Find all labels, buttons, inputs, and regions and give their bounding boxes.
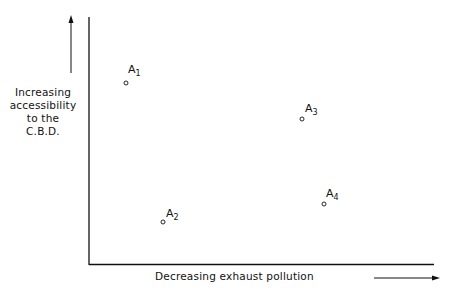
data-point-a2 [161, 220, 165, 224]
chart-canvas [0, 0, 455, 303]
point-label-a2: A2 [166, 207, 179, 222]
x-axis-label: Decreasing exhaust pollution [155, 270, 314, 282]
y-label-line: C.B.D. [0, 125, 86, 138]
up-arrow-icon [69, 15, 74, 73]
y-label-line: accessibility [0, 99, 86, 112]
point-label-a1: A1 [128, 63, 141, 78]
data-point-a4 [322, 202, 326, 206]
data-point-a3 [300, 117, 304, 121]
point-label-a3: A3 [305, 102, 318, 117]
right-arrow-icon [374, 276, 440, 281]
data-point-a1 [124, 81, 128, 85]
y-label-line: to the [0, 112, 86, 125]
point-label-a4: A4 [326, 187, 339, 202]
y-label-line: Increasing [0, 86, 86, 99]
y-axis-label: Increasing accessibility to the C.B.D. [0, 86, 86, 138]
